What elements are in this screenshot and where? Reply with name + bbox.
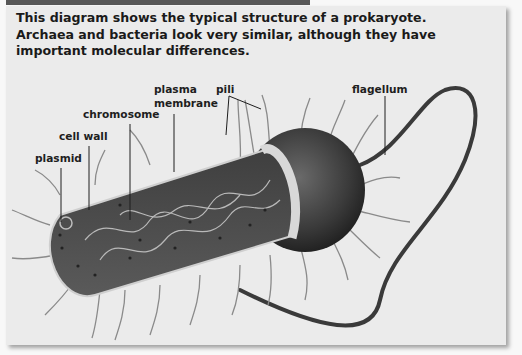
label-cell-wall: cell wall — [59, 130, 108, 143]
label-chromosome: chromosome — [83, 108, 159, 121]
cell-body — [50, 150, 296, 296]
label-pili: pili — [216, 83, 234, 96]
label-flagellum: flagellum — [352, 83, 408, 96]
prokaryote-illustration — [0, 0, 522, 355]
label-plasma-membrane-2: membrane — [154, 97, 218, 110]
label-plasma-membrane-1: plasma — [154, 83, 197, 96]
label-plasmid: plasmid — [35, 152, 82, 165]
